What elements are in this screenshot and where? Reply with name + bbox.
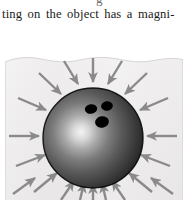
body-text-line: ting on the object has a magni- [2,7,186,22]
figure-canvas [5,54,183,200]
bowling-ball [43,88,143,188]
figure-bowling-ball-pressure [5,54,183,200]
text-block: g ting on the object has a magni- [0,0,188,34]
previous-line-descender-fragment: g [96,0,103,7]
